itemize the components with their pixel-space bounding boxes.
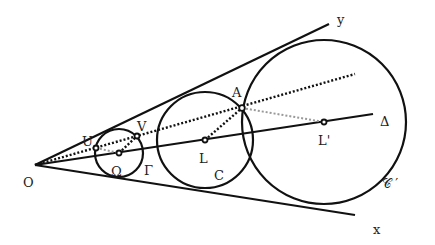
label-x: x bbox=[373, 222, 381, 237]
point-l-prime bbox=[322, 120, 327, 125]
label-o: O bbox=[23, 175, 34, 190]
dotted-segment-u-omega bbox=[96, 148, 119, 153]
ray-ox bbox=[35, 165, 355, 215]
point-omega bbox=[117, 151, 122, 156]
label-l: L bbox=[199, 151, 208, 166]
point-a bbox=[239, 105, 245, 111]
label-a: A bbox=[231, 85, 242, 100]
label-c: C bbox=[214, 168, 224, 183]
label-l-prime: L' bbox=[318, 133, 330, 148]
label-u: U bbox=[82, 134, 93, 149]
label-gamma: Γ bbox=[144, 163, 153, 178]
label-delta: Δ bbox=[380, 114, 389, 129]
geometry-diagram: O U V Ω Γ L C A L' Δ y x 𝒞 ′ bbox=[0, 0, 435, 245]
point-v bbox=[135, 134, 140, 139]
label-omega: Ω bbox=[111, 164, 122, 179]
point-u bbox=[94, 146, 99, 151]
label-c-prime: 𝒞 ′ bbox=[382, 176, 398, 191]
label-v: V bbox=[136, 119, 147, 134]
diagram-canvas: O U V Ω Γ L C A L' Δ y x 𝒞 ′ bbox=[0, 0, 435, 245]
dotted-segment-alprime bbox=[242, 108, 324, 122]
point-l bbox=[203, 138, 208, 143]
label-y: y bbox=[336, 12, 345, 27]
